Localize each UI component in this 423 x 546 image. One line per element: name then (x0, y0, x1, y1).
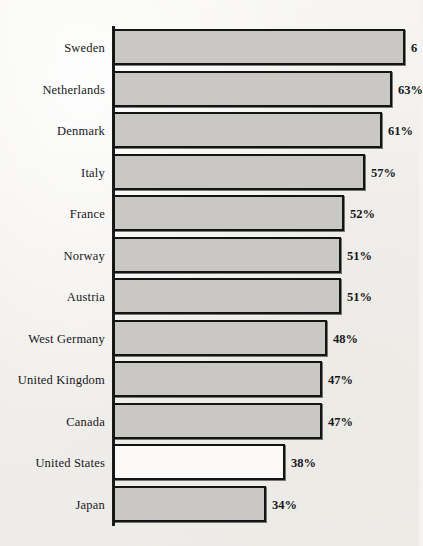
value-label: 57% (371, 165, 396, 180)
category-label: Sweden (0, 41, 105, 56)
category-label: West Germany (0, 331, 105, 346)
bar (113, 237, 341, 273)
bar-row: Denmark61% (0, 110, 419, 152)
bar (113, 112, 382, 148)
category-label: Italy (0, 165, 105, 180)
category-label: United Kingdom (0, 373, 105, 388)
value-label: 51% (347, 290, 372, 305)
value-label: 47% (328, 373, 353, 388)
value-label: 38% (291, 456, 316, 471)
bar-row: Norway51% (0, 235, 419, 277)
bar-row: Sweden6 (0, 27, 419, 69)
category-label: Norway (0, 248, 105, 263)
bar (113, 361, 322, 397)
value-label: 51% (347, 248, 372, 263)
bar (113, 195, 344, 231)
bar (113, 320, 327, 356)
category-label: United States (0, 456, 105, 471)
category-label: Netherlands (0, 82, 105, 97)
bar-row: Austria51% (0, 276, 419, 318)
category-label: Japan (0, 497, 105, 512)
value-label: 52% (350, 207, 375, 222)
bar (113, 403, 322, 439)
bar-row: Italy57% (0, 152, 419, 194)
value-label: 48% (333, 331, 358, 346)
bar-row: United Kingdom47% (0, 359, 419, 401)
value-label: 6 (411, 41, 417, 56)
category-label: Denmark (0, 124, 105, 139)
bar (113, 29, 405, 65)
bar-row: United States38% (0, 442, 419, 484)
value-label: 61% (388, 124, 413, 139)
category-label: Austria (0, 290, 105, 305)
bar-row: France52% (0, 193, 419, 235)
value-label: 34% (272, 497, 297, 512)
bar-row: Japan34% (0, 484, 419, 526)
value-label: 47% (328, 414, 353, 429)
value-label: 63% (398, 82, 423, 97)
category-label: France (0, 207, 105, 222)
bar-row: West Germany48% (0, 318, 419, 360)
bar-row: Canada47% (0, 401, 419, 443)
category-label: Canada (0, 414, 105, 429)
bar (113, 486, 266, 522)
bar-row: Netherlands63% (0, 69, 419, 111)
bar (113, 71, 392, 107)
bar (113, 154, 365, 190)
bar-highlighted (113, 444, 285, 480)
bar (113, 278, 341, 314)
